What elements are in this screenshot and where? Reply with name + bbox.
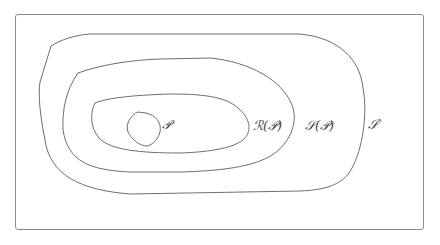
label-s-p: 𝒮(𝒫) [305, 119, 334, 132]
label-r-p: ℛ(𝒫) [253, 119, 282, 132]
label-s-star: 𝒮* [368, 118, 381, 131]
region-p [127, 112, 160, 146]
label-s-star-base: 𝒮 [368, 117, 378, 132]
label-p: 𝒫 [162, 118, 171, 131]
label-s-star-sup: * [378, 117, 381, 124]
region-s-p [63, 58, 294, 172]
